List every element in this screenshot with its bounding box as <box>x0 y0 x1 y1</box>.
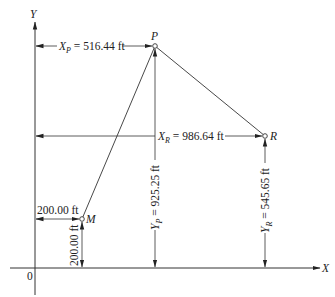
dimension-xr: XR = 986.64 ft <box>36 130 262 145</box>
y-axis-label: Y <box>30 8 38 20</box>
point-p: P <box>150 30 158 48</box>
dimension-yp-label: YP = 925.25 ft <box>149 164 164 230</box>
point-m-label: M <box>85 213 97 225</box>
origin-label: 0 <box>27 270 33 282</box>
dimension-xp: XP = 516.44 ft <box>36 40 152 55</box>
dimension-xm: 200.00 ft <box>36 204 79 219</box>
x-axis: X <box>10 262 330 274</box>
point-p-label: P <box>150 30 158 42</box>
point-r-marker <box>263 134 268 139</box>
point-r-label: R <box>269 130 277 142</box>
point-m-marker <box>80 217 85 222</box>
dimension-xr-label: XR = 986.64 ft <box>157 130 224 145</box>
dimension-yr: YR = 545.65 ft <box>259 139 274 267</box>
dimension-yp: YP = 925.25 ft <box>149 49 164 267</box>
dimension-xm-label: 200.00 ft <box>37 204 79 216</box>
y-axis: Y <box>30 8 38 295</box>
dimension-xp-label: XP = 516.44 ft <box>58 40 125 55</box>
point-p-marker <box>153 44 158 49</box>
dimension-ym-label: 200.00 ft <box>68 224 80 266</box>
coordinate-traverse-diagram: Y X 0 XP = 516.44 ft XR = 986.64 ft 200.… <box>0 0 335 297</box>
x-axis-label: X <box>321 262 330 274</box>
dimension-ym: 200.00 ft <box>68 222 82 267</box>
line-m-p <box>82 46 155 219</box>
dimension-yr-label: YR = 545.65 ft <box>259 167 274 233</box>
line-p-r <box>155 46 265 136</box>
